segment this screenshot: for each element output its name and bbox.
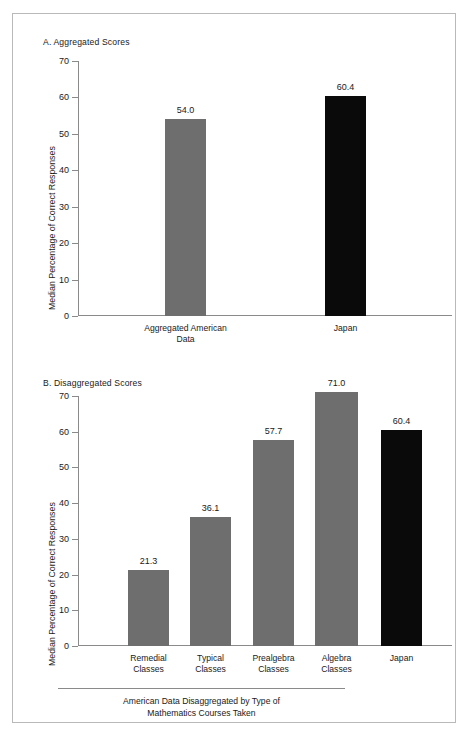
bar-remedial-classes[interactable]: 21.3 Remedial Classes: [128, 570, 169, 646]
panel-b-ytick-label-10: 10: [59, 606, 69, 615]
category-label-line-2: Classes: [258, 664, 289, 674]
category-label-line-2: Classes: [133, 664, 164, 674]
panel-b-ytick-label-50: 50: [59, 463, 69, 472]
panel-b-y-axis-title: Median Percentage of Correct Responses: [47, 502, 57, 666]
american-data-group-bracket: [58, 688, 345, 689]
panel-b-ytick-label-0: 0: [64, 642, 69, 651]
panel-a-ytick-label-0: 0: [64, 312, 69, 321]
category-label-aggregated-american-data: Aggregated American Data: [144, 323, 227, 345]
panel-b-ytick-label-40: 40: [59, 499, 69, 508]
bar-japan-disaggregated[interactable]: 60.4 Japan: [381, 430, 422, 646]
panel-b-y-axis-line: [78, 396, 79, 646]
category-label-typical-classes: Typical Classes: [195, 653, 226, 675]
bar-value-japan-disaggregated: 60.4: [393, 417, 411, 426]
panel-a-ytick-label-70: 70: [59, 57, 69, 66]
bar-value-typical-classes: 36.1: [202, 504, 220, 513]
category-label-prealgebra-classes: Prealgebra Classes: [252, 653, 294, 675]
panel-a-ytick-label-10: 10: [59, 275, 69, 284]
panel-b-title: B. Disaggregated Scores: [43, 378, 142, 388]
category-label-japan-disaggregated: Japan: [390, 653, 413, 664]
category-label-line-1: Remedial: [130, 653, 166, 663]
category-label-line-1: Algebra: [322, 653, 352, 663]
panel-a-ytick-label-60: 60: [59, 93, 69, 102]
bar-typical-classes[interactable]: 36.1 Typical Classes: [190, 517, 231, 646]
category-label-remedial-classes: Remedial Classes: [130, 653, 166, 675]
figure-frame: A. Aggregated Scores Median Percentage o…: [12, 13, 456, 723]
panel-b-ytick-label-60: 60: [59, 427, 69, 436]
category-label-line-2: Data: [176, 334, 194, 344]
panel-a-ytick-label-40: 40: [59, 166, 69, 175]
panel-b-x-axis-title: American Data Disaggregated by Type of M…: [58, 696, 345, 719]
panel-a-ytick-label-20: 20: [59, 239, 69, 248]
category-label-line-2: Classes: [321, 664, 352, 674]
panel-a-ytick-label-50: 50: [59, 129, 69, 138]
bar-algebra-classes[interactable]: 71.0 Algebra Classes: [315, 392, 358, 646]
bar-value-remedial-classes: 21.3: [140, 557, 158, 566]
category-label-line-1: Typical: [197, 653, 224, 663]
x-axis-title-line-2: Mathematics Courses Taken: [147, 708, 255, 718]
panel-a-x-axis-line: [78, 315, 452, 316]
category-label-line-1: Aggregated American: [144, 323, 227, 333]
panel-a-y-axis-title: Median Percentage of Correct Responses: [47, 146, 57, 310]
category-label-line-2: Classes: [195, 664, 226, 674]
category-label-japan-aggregated: Japan: [334, 323, 357, 334]
bar-value-japan-aggregated: 60.4: [337, 83, 355, 92]
bar-japan-aggregated[interactable]: 60.4 Japan: [325, 96, 366, 316]
panel-b-disaggregated-scores: B. Disaggregated Scores Median Percentag…: [13, 366, 455, 724]
bar-aggregated-american-data[interactable]: 54.0 Aggregated American Data: [165, 119, 206, 316]
panel-a-plot-area: 0 10 20 30 40 50: [78, 61, 442, 316]
panel-a-title: A. Aggregated Scores: [43, 37, 130, 47]
panel-b-plot-area: 0 10 20 30 40 50: [78, 396, 442, 646]
panel-a-aggregated-scores: A. Aggregated Scores Median Percentage o…: [13, 14, 455, 366]
x-axis-title-line-1: American Data Disaggregated by Type of: [123, 696, 280, 706]
bar-value-algebra-classes: 71.0: [328, 379, 346, 388]
category-label-line-1: Prealgebra: [252, 653, 294, 663]
panel-b-ytick-label-30: 30: [59, 534, 69, 543]
panel-b-ytick-label-70: 70: [59, 392, 69, 401]
bar-value-aggregated-american-data: 54.0: [177, 106, 195, 115]
panel-b-ytick-label-20: 20: [59, 570, 69, 579]
bar-prealgebra-classes[interactable]: 57.7 Prealgebra Classes: [253, 440, 294, 646]
bar-value-prealgebra-classes: 57.7: [265, 427, 283, 436]
category-label-algebra-classes: Algebra Classes: [321, 653, 352, 675]
panel-a-ytick-label-30: 30: [59, 202, 69, 211]
panel-a-y-axis-line: [78, 61, 79, 316]
